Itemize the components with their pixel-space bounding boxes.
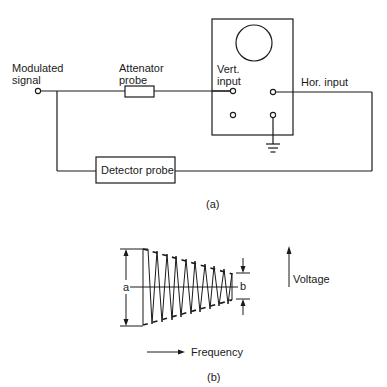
horizontal-input-terminal <box>270 89 275 94</box>
frequency-arrow-icon <box>147 350 185 355</box>
crt-screen <box>236 25 272 61</box>
attenuator-probe-label-line1: Attenator <box>119 62 164 74</box>
amplitude-a-label: a <box>123 281 130 293</box>
vert-input-label-line1: Vert. <box>217 63 240 75</box>
hor-input-label: Hor. input <box>301 76 348 88</box>
frequency-label: Frequency <box>191 346 243 358</box>
figure-a-caption: (a) <box>206 198 219 210</box>
attenuator-probe-resistor <box>125 86 154 97</box>
waveform-diagram-b: a b Voltage Frequency (b) <box>120 246 330 383</box>
modulated-signal-label-line2: signal <box>12 74 41 86</box>
voltage-arrow-icon <box>287 246 292 287</box>
vertical-input-terminal <box>230 88 235 93</box>
modulated-signal-label-line1: Modulated <box>12 62 63 74</box>
circuit-diagram-a: Modulated signal Attenator probe Detecto… <box>12 19 372 210</box>
ground-terminal <box>270 112 275 117</box>
unused-terminal <box>230 112 235 117</box>
vert-input-label-line2: input <box>217 75 241 87</box>
detector-probe-label: Detector probe <box>101 164 174 176</box>
attenuator-probe-label-line2: probe <box>119 74 147 86</box>
figure-b-caption: (b) <box>207 371 220 383</box>
modulated-signal-terminal <box>35 88 40 93</box>
amplitude-b-label: b <box>240 280 246 292</box>
voltage-label: Voltage <box>293 273 330 285</box>
